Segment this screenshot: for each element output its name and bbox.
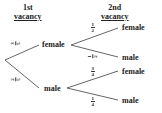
node-fm: male — [122, 53, 138, 62]
node-first-female: female — [42, 40, 65, 49]
prob-mm: 1 4 — [91, 96, 95, 107]
node-mf: female — [122, 67, 145, 76]
prob-fm: 1 2 — [87, 55, 98, 59]
prob-first-male: 2 5 — [10, 78, 21, 82]
prob-first-female: 3 5 — [10, 42, 21, 46]
node-ff: female — [122, 23, 145, 32]
prob-mf: 3 4 — [91, 66, 95, 77]
node-first-male: male — [44, 84, 60, 93]
branch-root-female — [5, 45, 39, 60]
branch-root-male — [5, 60, 39, 88]
node-mm: male — [122, 96, 138, 105]
prob-ff: 1 2 — [91, 22, 95, 33]
branch-female-female — [71, 28, 118, 45]
